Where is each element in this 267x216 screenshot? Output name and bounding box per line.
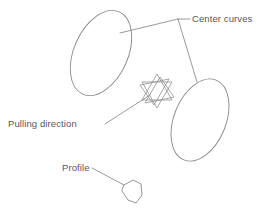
label-profile: Profile: [62, 162, 90, 173]
center-curves-leader-right-branch: [178, 19, 197, 82]
right-center-curve-ellipse: [160, 70, 240, 169]
profile-polygon: [122, 180, 142, 203]
pulling-direction-leader: [105, 95, 150, 124]
hexagram-triangle-down: [142, 82, 172, 108]
profile-leader: [92, 168, 124, 185]
center-curves-leader: [120, 19, 197, 82]
label-center-curves: Center curves: [192, 13, 253, 24]
technical-diagram-canvas: Center curves Pulling direction Profile: [0, 0, 267, 216]
left-center-curve-ellipse: [58, 1, 144, 105]
hexagram-triangle-up: [142, 74, 172, 100]
diagram-svg: Center curves Pulling direction Profile: [0, 0, 267, 216]
pulling-direction-hexagram: [140, 74, 174, 108]
label-pulling-direction: Pulling direction: [8, 118, 77, 129]
